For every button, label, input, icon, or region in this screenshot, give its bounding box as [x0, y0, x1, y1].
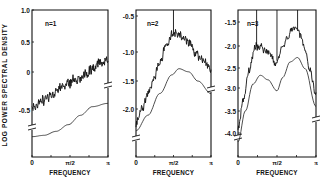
y-tick-label: -0.5: [19, 107, 31, 114]
y-tick-label: -3.0: [225, 85, 237, 92]
axis-break-mark: [28, 128, 36, 130]
theoretical-spectrum-curve: [32, 103, 108, 136]
panel-label: n=3: [247, 20, 259, 27]
axis-break-mark: [312, 120, 320, 122]
x-tick-label: π/2: [272, 160, 282, 166]
axis-break-mark: [234, 138, 242, 140]
y-tick-label: 0: [26, 69, 30, 76]
x-tick-label: π: [314, 159, 318, 166]
x-tick-label: 0: [134, 159, 138, 166]
panel-label: n=1: [45, 20, 57, 27]
x-tick-label: 0: [236, 159, 240, 166]
x-tick-label: π/2: [65, 160, 75, 166]
axis-break-mark: [104, 86, 112, 88]
y-tick-label: -3.5: [225, 108, 237, 115]
panel-label: n=2: [147, 20, 159, 27]
estimated-spectrum-curve: [136, 29, 211, 127]
x-tick-label: π: [106, 159, 110, 166]
axis-break-mark: [132, 139, 140, 141]
estimated-spectrum-curve: [32, 57, 108, 110]
y-tick-label: 0.5: [21, 39, 30, 46]
y-tick-label: -0.5: [123, 13, 135, 20]
spectral-density-figure: 1.00.50-0.50π/2πFREQUENCYn=1-0.5-1.0-1.5…: [0, 0, 325, 183]
x-tick-label: π/2: [169, 160, 179, 166]
y-tick-label: -2.5: [225, 65, 237, 72]
x-tick-label: π: [209, 159, 213, 166]
y-tick-label: 1.0: [21, 7, 30, 14]
y-tick-label: -4.0: [225, 130, 237, 137]
x-axis-label: FREQUENCY: [49, 169, 91, 177]
panel-frame-top: [32, 10, 108, 125]
y-tick-label: -1.5: [225, 19, 237, 26]
y-tick-label: -1.5: [123, 78, 135, 85]
panel-frame-bottom: [238, 122, 316, 157]
y-tick-label: -2.0: [225, 43, 237, 50]
x-axis-label: FREQUENCY: [153, 169, 195, 177]
panel-frame-bottom: [136, 92, 211, 157]
x-axis-label: FREQUENCY: [256, 169, 298, 177]
y-tick-label: -2.0: [123, 106, 135, 113]
theoretical-spectrum-curve: [136, 69, 211, 131]
y-tick-label: -1.0: [123, 49, 135, 56]
x-tick-label: 0: [30, 159, 34, 166]
